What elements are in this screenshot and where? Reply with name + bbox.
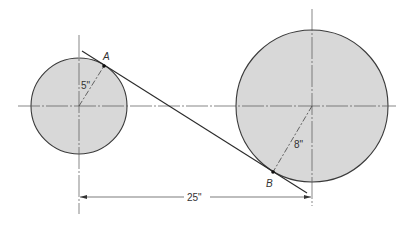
tangent-circles-diagram: A B 5" 8" 25" xyxy=(0,0,407,226)
small-radius-label: 5" xyxy=(81,80,91,91)
dimension-arrow-right-icon xyxy=(304,195,311,199)
tangent-point-b-label: B xyxy=(266,178,273,189)
large-radius-label: 8" xyxy=(294,139,304,150)
center-distance-label: 25" xyxy=(187,192,202,203)
tangent-point-b xyxy=(271,170,275,174)
tangent-point-a xyxy=(102,64,106,68)
tangent-point-a-label: A xyxy=(102,51,110,62)
dimension-arrow-left-icon xyxy=(80,195,87,199)
